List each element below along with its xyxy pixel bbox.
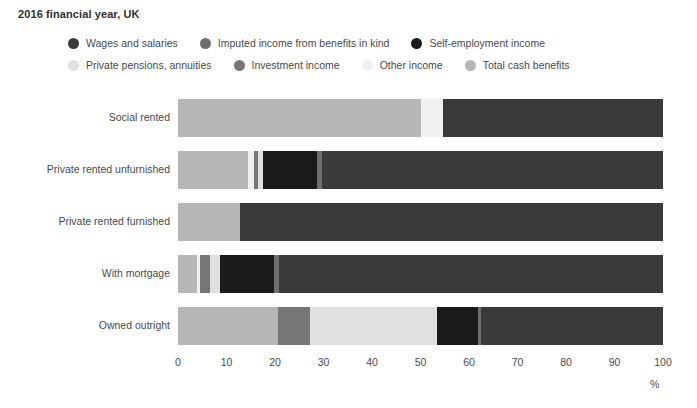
bar-segment[interactable] — [178, 151, 248, 189]
legend-swatch-icon — [68, 60, 79, 71]
legend-swatch-icon — [200, 38, 211, 49]
legend-swatch-icon — [411, 38, 422, 49]
chart-container: 2016 financial year, UK Wages and salari… — [0, 0, 697, 408]
bar-segment[interactable] — [178, 99, 421, 137]
legend-item[interactable]: Private pensions, annuities — [68, 60, 212, 71]
axis-tick-label: 80 — [560, 356, 572, 368]
axis-tick-label: 90 — [609, 356, 621, 368]
bar-row — [178, 307, 663, 345]
bar-segment[interactable] — [240, 203, 663, 241]
bar-segment[interactable] — [421, 99, 443, 137]
chart-title: 2016 financial year, UK — [18, 8, 140, 20]
legend-item[interactable]: Investment income — [234, 60, 340, 71]
legend-item[interactable]: Imputed income from benefits in kind — [200, 38, 390, 49]
bar-segment[interactable] — [481, 307, 663, 345]
bar-segment[interactable] — [210, 255, 220, 293]
legend-item-label: Total cash benefits — [483, 60, 570, 71]
legend-item[interactable]: Other income — [362, 60, 443, 71]
category-axis-labels: Social rentedPrivate rented unfurnishedP… — [8, 99, 170, 351]
bar-segment[interactable] — [178, 203, 240, 241]
legend-swatch-icon — [68, 38, 79, 49]
axis-tick-label: 20 — [269, 356, 281, 368]
axis-tick-label: 10 — [221, 356, 233, 368]
bar-segment[interactable] — [278, 307, 310, 345]
legend-row-1: Wages and salariesImputed income from be… — [60, 32, 660, 54]
legend-item[interactable]: Wages and salaries — [68, 38, 178, 49]
category-label: Owned outright — [10, 319, 170, 331]
bar-row — [178, 255, 663, 293]
axis-tick-label: 0 — [175, 356, 181, 368]
value-axis: 0102030405060708090100 — [178, 356, 663, 374]
legend-item-label: Private pensions, annuities — [86, 60, 212, 71]
axis-tick-label: 60 — [463, 356, 475, 368]
bar-segment[interactable] — [200, 255, 209, 293]
category-label: Private rented furnished — [10, 215, 170, 227]
axis-tick-label: 40 — [366, 356, 378, 368]
axis-unit-label: % — [650, 378, 659, 390]
bar-row — [178, 151, 663, 189]
bar-segment[interactable] — [220, 255, 274, 293]
axis-tick-label: 30 — [318, 356, 330, 368]
axis-tick-label: 100 — [654, 356, 672, 368]
legend-item[interactable]: Self-employment income — [411, 38, 545, 49]
category-label: With mortgage — [10, 267, 170, 279]
bar-segment[interactable] — [178, 307, 278, 345]
bar-segment[interactable] — [322, 151, 663, 189]
bar-segment[interactable] — [437, 307, 478, 345]
plot-area — [178, 99, 663, 351]
bar-segment[interactable] — [178, 255, 197, 293]
bar-segment[interactable] — [279, 255, 663, 293]
bar-row — [178, 99, 663, 137]
category-label: Social rented — [10, 111, 170, 123]
legend-item[interactable]: Total cash benefits — [465, 60, 570, 71]
legend-item-label: Self-employment income — [429, 38, 545, 49]
legend-item-label: Imputed income from benefits in kind — [218, 38, 390, 49]
category-label: Private rented unfurnished — [10, 163, 170, 175]
legend-item-label: Wages and salaries — [86, 38, 178, 49]
chart-legend: Wages and salariesImputed income from be… — [60, 32, 660, 76]
bar-segment[interactable] — [310, 307, 437, 345]
legend-row-2: Private pensions, annuitiesInvestment in… — [60, 54, 660, 76]
legend-swatch-icon — [362, 60, 373, 71]
legend-item-label: Other income — [380, 60, 443, 71]
legend-item-label: Investment income — [252, 60, 340, 71]
axis-tick-label: 50 — [415, 356, 427, 368]
bar-row — [178, 203, 663, 241]
legend-swatch-icon — [465, 60, 476, 71]
legend-swatch-icon — [234, 60, 245, 71]
bar-segment[interactable] — [263, 151, 317, 189]
axis-tick-label: 70 — [512, 356, 524, 368]
bar-segment[interactable] — [443, 99, 663, 137]
